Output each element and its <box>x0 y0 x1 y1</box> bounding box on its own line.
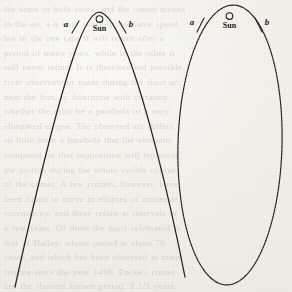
orbit-diagram: a b Sun a b Sun <box>0 0 292 292</box>
label-sun-left: Sun <box>93 24 107 33</box>
left-figure-parabolic-orbit: a b Sun <box>15 12 185 287</box>
right-figure-elliptical-orbit: a b Sun <box>174 4 285 287</box>
point-b-tick-left <box>119 21 126 33</box>
sun-symbol-icon-right <box>226 13 233 20</box>
label-sun-right: Sun <box>223 21 237 30</box>
label-point-b-left: b <box>129 19 134 29</box>
label-point-a-right: a <box>190 17 195 27</box>
point-b-tick-right <box>255 18 262 32</box>
sun-symbol-icon-left <box>96 16 103 23</box>
ellipse-curve <box>174 4 285 287</box>
point-a-tick-left <box>72 21 79 33</box>
label-point-b-right: b <box>265 17 270 27</box>
scanned-page: the same in both cases, and the comet mo… <box>0 0 292 292</box>
parabola-curve <box>15 12 185 287</box>
label-point-a-left: a <box>64 19 69 29</box>
